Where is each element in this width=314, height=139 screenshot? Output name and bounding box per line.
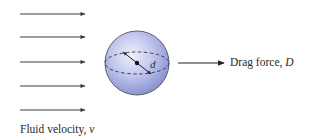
fluid-velocity-text: Fluid velocity,: [20, 123, 89, 135]
sphere: [105, 31, 169, 95]
diameter-label: d: [150, 59, 156, 70]
drag-force-label: Drag force, D: [230, 57, 294, 69]
drag-force-var: D: [285, 56, 293, 68]
drag-diagram: [0, 0, 314, 139]
fluid-velocity-var: v: [89, 123, 94, 135]
flow-arrows: [20, 14, 85, 110]
fluid-velocity-label: Fluid velocity, v: [20, 124, 94, 136]
sphere-center-dot: [135, 61, 139, 65]
drag-force-text: Drag force,: [230, 56, 285, 68]
